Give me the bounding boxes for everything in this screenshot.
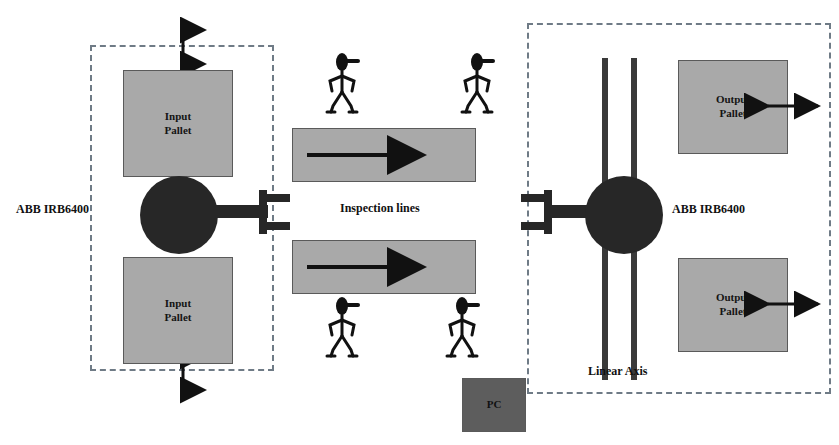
left-robot-gripper-prong-bottom xyxy=(264,222,290,230)
left-robot-gripper-prong-top xyxy=(264,194,290,202)
input-pallet-bottom-label: Input Pallet xyxy=(165,297,192,325)
inspection-lines-label: Inspection lines xyxy=(340,201,420,216)
input-pallet-bottom: Input Pallet xyxy=(123,257,233,364)
diagram-canvas: Input Pallet Input Pallet ABB IRB6400 xyxy=(0,0,839,445)
input-pallet-top: Input Pallet xyxy=(123,70,233,177)
linear-axis-label: Linear Axis xyxy=(588,364,647,379)
pc-label: PC xyxy=(487,398,502,412)
inspection-conveyor-top-flow-arrow xyxy=(305,146,435,164)
left-robot-body xyxy=(140,176,218,254)
output-pallet-bottom-arrow xyxy=(760,292,828,316)
left-robot-label: ABB IRB6400 xyxy=(16,202,89,217)
operator-bottom-right-icon xyxy=(440,296,486,358)
linear-axis-label-text: Linear Axis xyxy=(588,364,647,378)
operator-top-right-icon xyxy=(455,52,501,114)
operator-top-left-icon xyxy=(320,52,366,114)
right-robot-label: ABB IRB6400 xyxy=(672,202,745,217)
inspection-conveyor-bottom-flow-arrow xyxy=(305,258,435,276)
pc-box: PC xyxy=(462,378,526,432)
input-pallet-top-label: Input Pallet xyxy=(165,110,192,138)
output-pallet-top-arrow xyxy=(760,94,828,118)
output-pallet-top-label: Output Pallet xyxy=(716,93,750,121)
right-robot-body xyxy=(585,176,663,254)
operator-bottom-left-icon xyxy=(320,296,366,358)
output-pallet-bottom-label: Output Pallet xyxy=(716,291,750,319)
left-cell-top-arrow xyxy=(170,22,196,72)
